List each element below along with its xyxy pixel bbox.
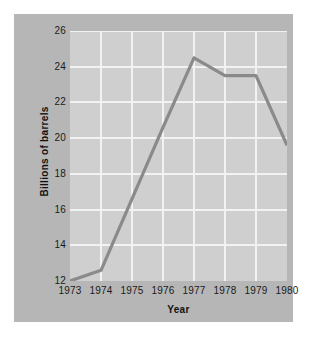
y-axis-tick-label: 14	[40, 240, 66, 250]
y-axis-tick-label: 26	[40, 26, 66, 36]
line-chart-svg	[70, 31, 287, 281]
data-series-line	[70, 58, 287, 281]
chart-figure: 1214161820222426 19731974197519761977197…	[0, 0, 311, 338]
y-axis-label: Billions of barrels	[39, 72, 50, 232]
x-axis-tick-label: 1980	[267, 285, 307, 297]
y-axis-tick-label: 24	[40, 62, 66, 72]
plot-area	[70, 31, 287, 281]
x-axis-ticks: 19731974197519761977197819791980	[70, 285, 287, 301]
chart-panel: 1214161820222426 19731974197519761977197…	[14, 14, 293, 322]
x-axis-label: Year	[70, 304, 287, 315]
